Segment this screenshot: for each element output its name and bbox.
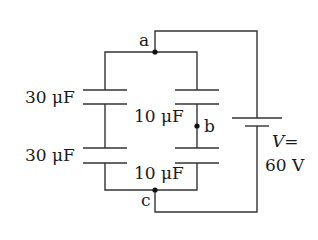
battery-symbol-label: V= [272, 133, 299, 150]
wire-a-to-battery [155, 31, 257, 118]
cap-c1-label: 30 μF [25, 89, 75, 106]
cap-c4-label: 10 μF [134, 165, 184, 182]
wire-top-left [105, 52, 155, 90]
battery-value-label: 60 V [265, 157, 304, 174]
node-a-label: a [139, 32, 149, 49]
wire-top-right [155, 52, 197, 90]
cap-c2-label: 30 μF [25, 147, 75, 164]
node-c-dot [152, 187, 157, 192]
node-b-label: b [204, 118, 215, 135]
cap-c3-label: 10 μF [134, 108, 184, 125]
node-b-dot [194, 123, 199, 128]
node-a-dot [152, 49, 157, 54]
node-c-label: c [141, 192, 151, 209]
